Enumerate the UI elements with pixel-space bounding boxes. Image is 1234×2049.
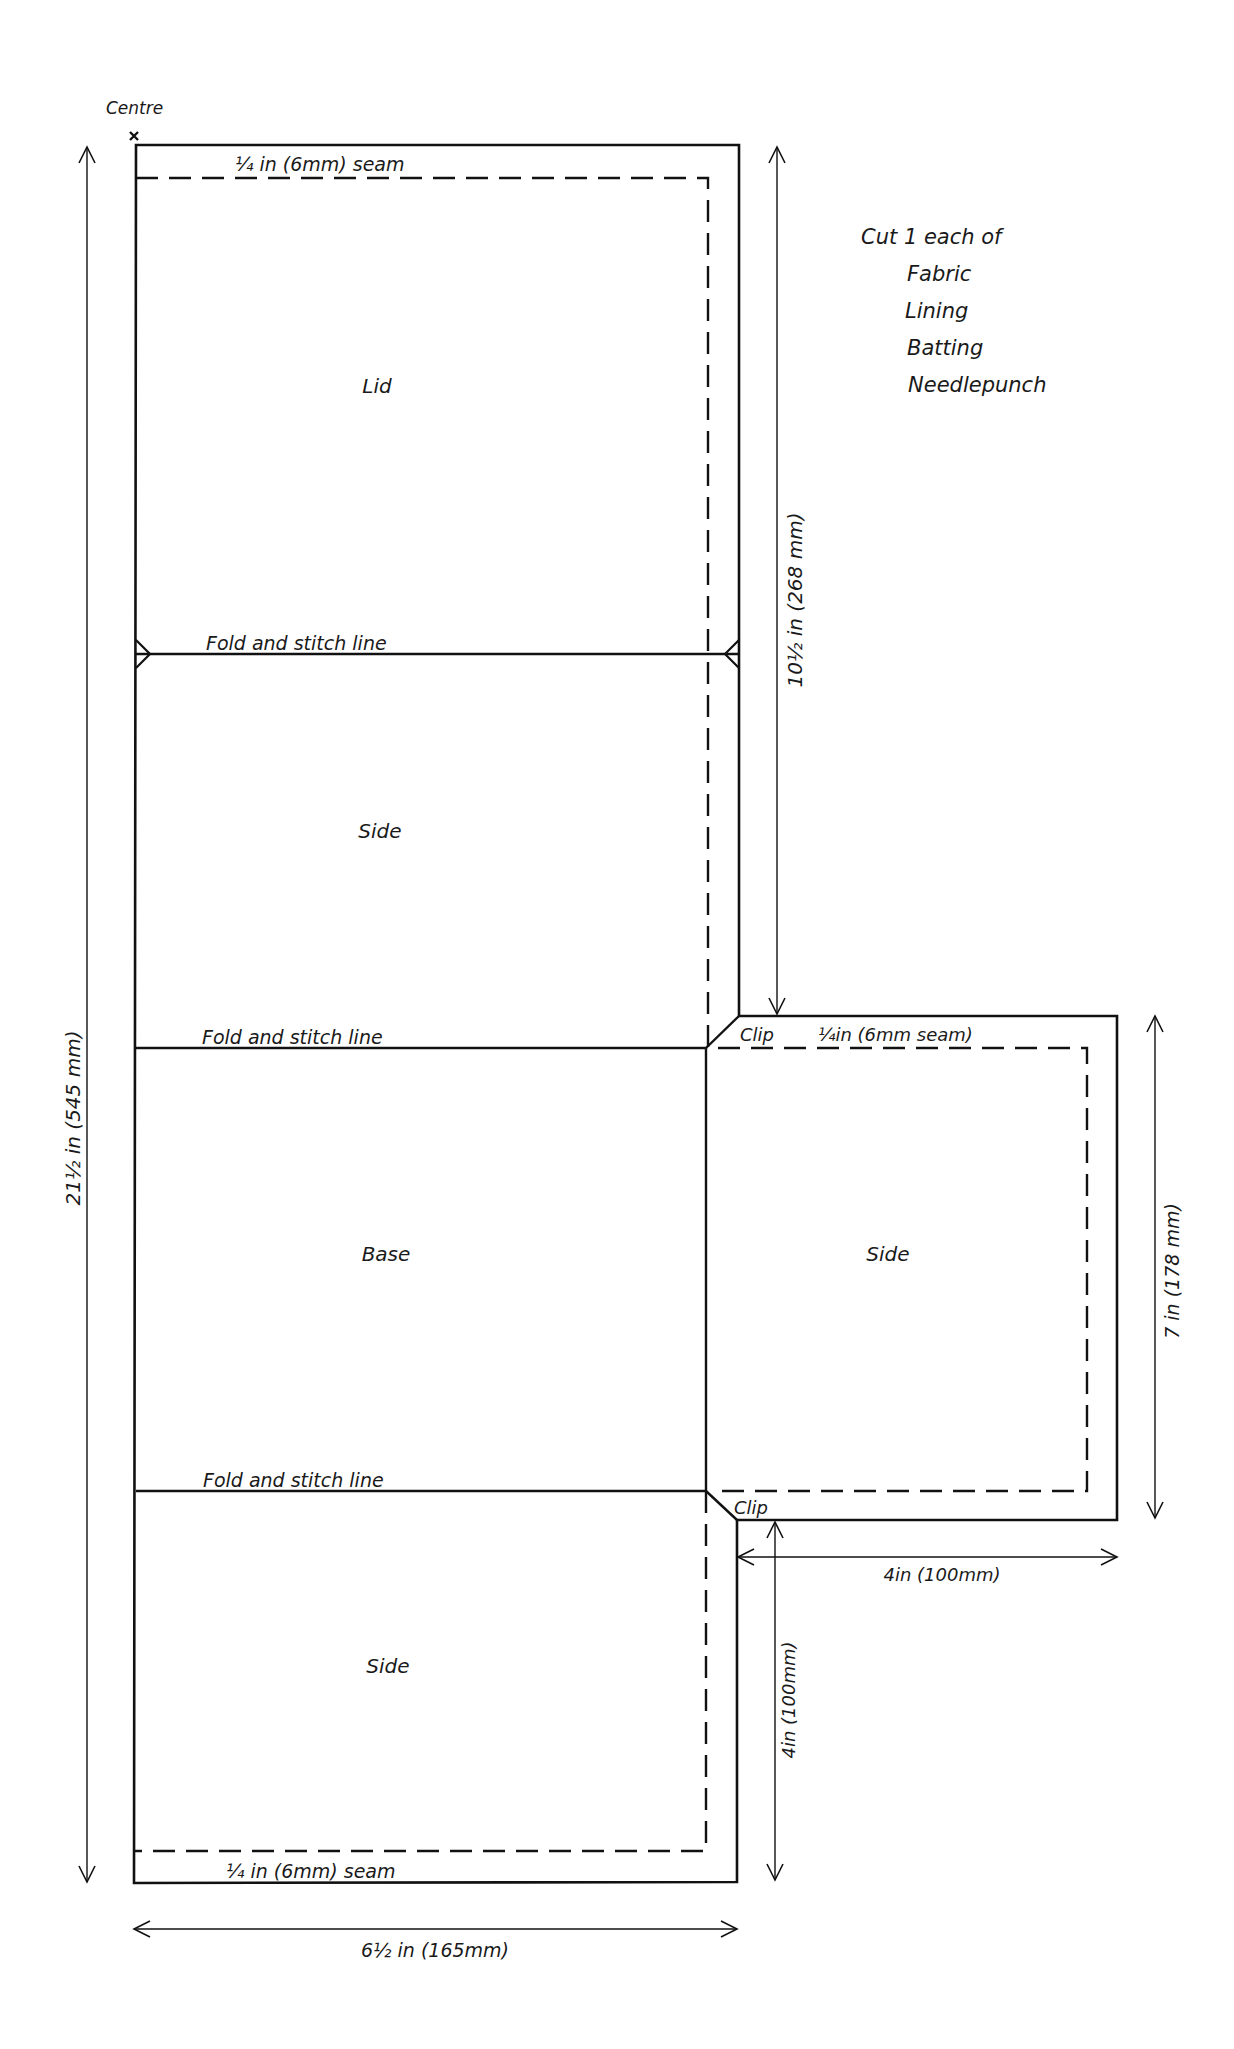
instructions-item: Needlepunch <box>908 373 1046 397</box>
dim-label-upper-length: 10½ in (268 mm) <box>783 513 807 688</box>
panel-label-side-right: Side <box>866 1242 909 1266</box>
clip-label-top: Clip <box>740 1024 774 1045</box>
fold-label-1: Fold and stitch line <box>206 632 387 654</box>
clip-label-bottom: Clip <box>734 1497 768 1518</box>
panel-label-base: Base <box>362 1242 411 1266</box>
centre-mark-icon <box>130 132 138 140</box>
instructions-item: Lining <box>905 299 968 323</box>
clip-bottom <box>706 1491 737 1520</box>
dim-label-lower-length: 4in (100mm) <box>778 1641 799 1758</box>
instructions-item: Batting <box>907 336 983 360</box>
dim-label-total-width: 6½ in (165mm) <box>361 1939 509 1961</box>
fold-label-3: Fold and stitch line <box>203 1469 384 1491</box>
dim-label-total-length: 21½ in (545 mm) <box>61 1031 85 1206</box>
panel-label-side-top: Side <box>358 819 401 843</box>
seam-label-top: ¼ in (6mm) seam <box>235 153 405 175</box>
seam-label-right: ¼in (6mm seam) <box>818 1024 973 1045</box>
seam-label-bottom: ¼ in (6mm) seam <box>226 1860 396 1882</box>
panel-label-side-bottom: Side <box>366 1654 409 1678</box>
cut-outline <box>134 145 1117 1883</box>
clip-top <box>706 1016 739 1048</box>
dim-label-flap-width: 4in (100mm) <box>883 1564 1000 1585</box>
instructions-item: Fabric <box>907 262 972 286</box>
instructions-heading: Cut 1 each of <box>861 225 1005 249</box>
pattern-diagram: Centre Lid Side Base Side Side Fold and … <box>0 0 1234 2049</box>
panel-label-lid: Lid <box>362 374 392 398</box>
fold-label-2: Fold and stitch line <box>202 1026 383 1048</box>
dim-label-flap-height: 7 in (178 mm) <box>1161 1203 1183 1339</box>
centre-label: Centre <box>106 98 163 118</box>
seam-lines <box>134 178 1087 1851</box>
